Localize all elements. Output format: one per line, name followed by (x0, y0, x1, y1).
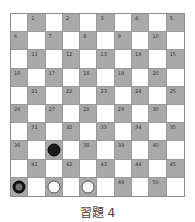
light-square (11, 14, 28, 32)
square-20: 20 (149, 69, 166, 87)
square-number: 43 (100, 162, 106, 167)
square-number: 33 (100, 125, 106, 130)
square-number: 31 (31, 125, 37, 130)
square-10: 10 (149, 32, 166, 50)
light-square (46, 87, 63, 105)
square-19: 19 (115, 69, 132, 87)
square-44: 44 (132, 160, 149, 178)
square-number: 25 (170, 89, 176, 94)
light-square (97, 32, 114, 50)
light-square (115, 160, 132, 178)
light-square (28, 105, 45, 123)
square-46 (11, 178, 28, 196)
light-square (80, 160, 97, 178)
square-30: 30 (149, 105, 166, 123)
square-number: 10 (152, 34, 158, 39)
square-number: 6 (14, 34, 17, 39)
light-square (132, 141, 149, 159)
square-number: 14 (135, 52, 141, 57)
white-piece (47, 180, 60, 193)
light-square (132, 178, 149, 196)
light-square (167, 178, 184, 196)
square-number: 24 (135, 89, 141, 94)
light-square (28, 178, 45, 196)
square-number: 30 (152, 107, 158, 112)
light-square (46, 160, 63, 178)
light-square (132, 32, 149, 50)
square-35: 35 (167, 123, 184, 141)
square-number: 1 (31, 16, 34, 21)
square-37 (46, 141, 63, 159)
light-square (97, 178, 114, 196)
square-number: 7 (49, 34, 52, 39)
light-square (28, 32, 45, 50)
light-square (167, 32, 184, 50)
light-square (115, 14, 132, 32)
square-40: 40 (149, 141, 166, 159)
light-square (80, 50, 97, 68)
square-21: 21 (28, 87, 45, 105)
light-square (167, 141, 184, 159)
square-28: 28 (80, 105, 97, 123)
square-2: 2 (63, 14, 80, 32)
light-square (149, 50, 166, 68)
square-number: 42 (66, 162, 72, 167)
square-number: 3 (100, 16, 103, 21)
square-50: 50 (149, 178, 166, 196)
square-9: 9 (115, 32, 132, 50)
light-square (11, 50, 28, 68)
square-26: 26 (11, 105, 28, 123)
light-square (149, 87, 166, 105)
square-number: 12 (66, 52, 72, 57)
square-36: 36 (11, 141, 28, 159)
square-49: 49 (115, 178, 132, 196)
square-number: 16 (14, 71, 20, 76)
white-piece (82, 180, 95, 193)
square-number: 34 (135, 125, 141, 130)
square-number: 27 (49, 107, 55, 112)
square-16: 16 (11, 69, 28, 87)
square-15: 15 (167, 50, 184, 68)
square-24: 24 (132, 87, 149, 105)
square-5: 5 (167, 14, 184, 32)
square-29: 29 (115, 105, 132, 123)
square-number: 17 (49, 71, 55, 76)
square-23: 23 (97, 87, 114, 105)
square-number: 18 (83, 71, 89, 76)
light-square (149, 123, 166, 141)
square-number: 50 (152, 180, 158, 185)
square-number: 2 (66, 16, 69, 21)
square-6: 6 (11, 32, 28, 50)
light-square (97, 105, 114, 123)
light-square (80, 123, 97, 141)
square-25: 25 (167, 87, 184, 105)
light-square (132, 105, 149, 123)
light-square (11, 160, 28, 178)
square-34: 34 (132, 123, 149, 141)
square-number: 20 (152, 71, 158, 76)
square-number: 23 (100, 89, 106, 94)
square-number: 8 (83, 34, 86, 39)
light-square (63, 105, 80, 123)
square-number: 26 (14, 107, 20, 112)
light-square (97, 69, 114, 87)
figure-caption: 習題 4 (0, 203, 195, 220)
light-square (80, 14, 97, 32)
square-48 (80, 178, 97, 196)
light-square (11, 123, 28, 141)
square-41: 41 (28, 160, 45, 178)
square-number: 5 (170, 16, 173, 21)
square-12: 12 (63, 50, 80, 68)
square-number: 19 (118, 71, 124, 76)
square-47 (46, 178, 63, 196)
light-square (11, 87, 28, 105)
light-square (167, 105, 184, 123)
square-14: 14 (132, 50, 149, 68)
light-square (63, 32, 80, 50)
square-number: 40 (152, 143, 158, 148)
light-square (149, 160, 166, 178)
light-square (46, 50, 63, 68)
light-square (63, 178, 80, 196)
square-number: 13 (100, 52, 106, 57)
square-number: 9 (118, 34, 121, 39)
